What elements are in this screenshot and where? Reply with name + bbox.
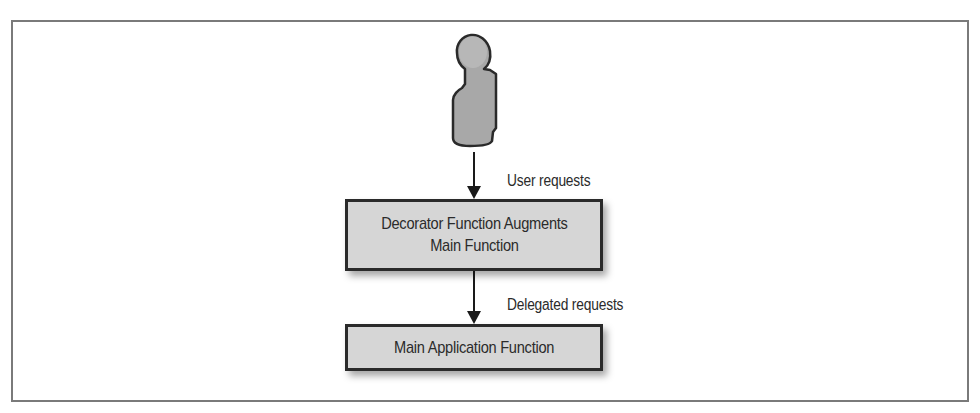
arrow-delegated-requests <box>467 271 481 324</box>
decorator-node-line1: Decorator Function Augments <box>381 213 567 235</box>
person-icon <box>453 35 496 146</box>
decorator-function-node: Decorator Function Augments Main Functio… <box>345 199 603 271</box>
edge-label-delegated-requests: Delegated requests <box>507 296 623 314</box>
arrow-user-requests <box>467 152 481 199</box>
main-application-function-node: Main Application Function <box>345 324 603 371</box>
main-node-label: Main Application Function <box>394 337 554 359</box>
edge-label-user-requests: User requests <box>507 172 590 190</box>
decorator-node-line2: Main Function <box>381 235 567 257</box>
